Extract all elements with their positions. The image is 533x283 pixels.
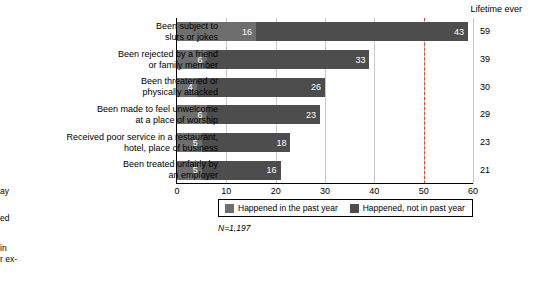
category-label: Received poor service in a restaurant,ho… — [18, 132, 218, 154]
category-label-line: slurs or jokes — [18, 32, 218, 43]
legend-item-past-year: Happened in the past year — [225, 203, 338, 213]
category-label-line: hotel, place of business — [18, 143, 218, 154]
legend-swatch-past-year — [225, 204, 234, 213]
bar-value-not-past-year: 16 — [267, 165, 277, 175]
x-tick-50: 50 — [419, 186, 429, 196]
bar-value-not-past-year: 33 — [355, 55, 365, 65]
lifetime-total-value: 23 — [480, 137, 520, 147]
category-label-line: at a place of worship — [18, 115, 218, 126]
gridline-20 — [276, 18, 277, 184]
x-tick-30: 30 — [320, 186, 330, 196]
x-tick-60: 60 — [468, 186, 478, 196]
category-label-line: Been subject to — [18, 21, 218, 32]
gridline-30 — [325, 18, 326, 184]
gridline-60 — [473, 18, 474, 184]
category-label-line: Received poor service in a restaurant, — [18, 132, 218, 143]
dashed-reference-line — [424, 18, 426, 184]
sample-size-note: N=1,197 — [218, 223, 250, 233]
lifetime-total-value: 21 — [480, 165, 520, 175]
x-tick-40: 40 — [369, 186, 379, 196]
margin-fragment: ed — [0, 213, 9, 224]
legend-item-not-past-year: Happened, not in past year — [350, 203, 465, 213]
lifetime-total-value: 39 — [480, 54, 520, 64]
x-tick-0: 0 — [174, 186, 179, 196]
category-label: Been made to feel unwelcomeat a place of… — [18, 104, 218, 126]
category-label: Been rejected by a friendor family membe… — [18, 49, 218, 71]
stacked-bar-chart: Lifetime ever 4316336264236185165 010203… — [22, 4, 522, 242]
x-tick-20: 20 — [271, 186, 281, 196]
bar-value-not-past-year: 26 — [311, 82, 321, 92]
lifetime-total-value: 59 — [480, 26, 520, 36]
chart-root: ay ed in r ex- Lifetime ever 43163362642… — [0, 0, 533, 283]
margin-fragment: in — [0, 243, 7, 254]
gridline-10 — [226, 18, 227, 184]
legend-label-not-past-year: Happened, not in past year — [363, 203, 465, 213]
legend-swatch-not-past-year — [350, 204, 359, 213]
bar-value-not-past-year: 23 — [306, 110, 316, 120]
category-label: Been subject toslurs or jokes — [18, 21, 218, 43]
category-label-line: or family member — [18, 60, 218, 71]
lifetime-ever-header: Lifetime ever — [470, 4, 522, 14]
category-label-line: Been treated unfairly by — [18, 159, 218, 170]
category-label-line: Been threatened or — [18, 76, 218, 87]
category-label: Been threatened orphysically attacked — [18, 76, 218, 98]
category-label-line: physically attacked — [18, 87, 218, 98]
chart-legend: Happened in the past year Happened, not … — [218, 199, 473, 217]
x-axis — [176, 183, 473, 184]
lifetime-total-value: 29 — [480, 109, 520, 119]
margin-fragment: r ex- — [0, 254, 17, 265]
legend-label-past-year: Happened in the past year — [238, 203, 338, 213]
category-label-line: an employer — [18, 170, 218, 181]
category-label-line: Been made to feel unwelcome — [18, 104, 218, 115]
gridline-40 — [374, 18, 375, 184]
category-label-line: Been rejected by a friend — [18, 49, 218, 60]
bar-value-not-past-year: 18 — [276, 138, 286, 148]
margin-fragment: ay — [0, 186, 9, 197]
lifetime-total-value: 30 — [480, 82, 520, 92]
x-tick-10: 10 — [221, 186, 231, 196]
bar-value-past-year: 16 — [242, 27, 252, 37]
plot-area: 4316336264236185165 0102030405060 — [176, 18, 473, 184]
category-label: Been treated unfairly byan employer — [18, 159, 218, 181]
bar-value-not-past-year: 43 — [454, 27, 464, 37]
bar-row: 4316 — [177, 22, 468, 41]
